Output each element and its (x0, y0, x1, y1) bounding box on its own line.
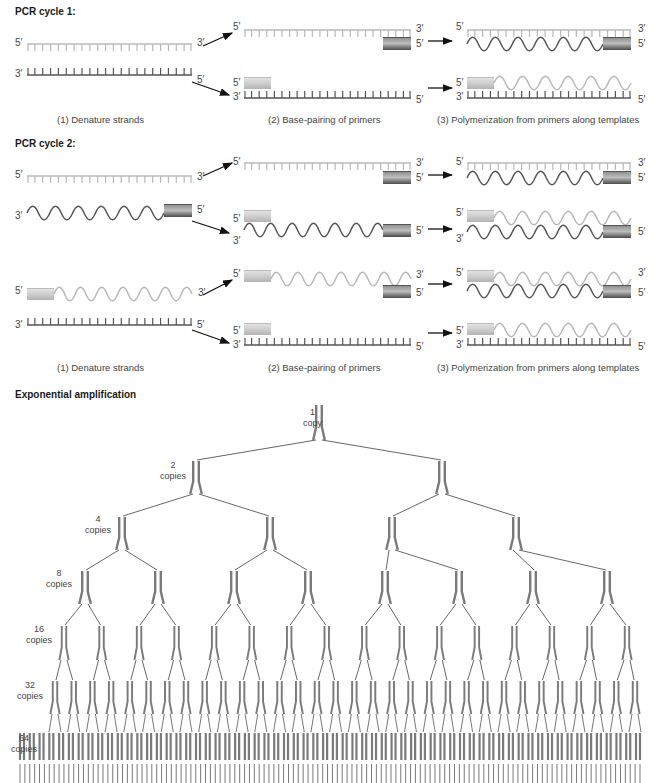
pcr-diagram-canvas (0, 0, 655, 783)
primer-dark (164, 204, 192, 217)
dna-duplex-icon (421, 733, 425, 760)
five-prime-label: 5′ (416, 173, 423, 183)
dna-duplex-icon (630, 681, 639, 714)
dna-duplex-icon (585, 626, 594, 660)
dna-duplex-icon (548, 733, 552, 760)
three-prime-label: 3′ (197, 172, 204, 182)
dna-duplex-icon (601, 571, 613, 604)
copies-unit: copy (303, 418, 322, 429)
five-prime-label: 5′ (638, 173, 645, 183)
primer-dark (383, 171, 411, 184)
dna-duplex-icon (443, 681, 452, 714)
dna-duplex-icon (453, 571, 465, 604)
dna-duplex-icon (401, 733, 405, 760)
dna-duplex-icon (323, 733, 327, 760)
primer-dark (603, 225, 631, 238)
copies-unit: copies (85, 525, 111, 536)
dna-duplex-icon (176, 733, 180, 760)
dna-duplex-icon (616, 733, 620, 760)
dna-duplex-icon (597, 733, 601, 760)
dna-duplex-icon (382, 733, 386, 760)
dna-duplex-icon (247, 626, 256, 660)
three-prime-label: 3′ (638, 158, 645, 168)
copies-count: 4 (85, 514, 111, 525)
five-prime-label: 5′ (416, 226, 423, 236)
primer-light (27, 288, 54, 300)
five-prime-label: 5′ (638, 95, 645, 105)
five-prime-label: 5′ (456, 326, 463, 336)
primer-light (244, 210, 271, 222)
copies-unit: copies (46, 579, 72, 590)
dna-duplex-icon (88, 733, 92, 760)
dna-duplex-icon (200, 681, 209, 714)
primer-dark (383, 37, 411, 50)
dna-strand-wave (271, 272, 411, 286)
dna-duplex-icon (88, 681, 97, 714)
dna-duplex-icon (186, 733, 190, 760)
five-prime-label: 5′ (456, 22, 463, 32)
copies-label-level-6: 64copies (11, 733, 37, 755)
five-prime-label: 5′ (638, 288, 645, 298)
five-prime-label: 5′ (416, 95, 423, 105)
dna-duplex-icon (368, 681, 377, 714)
dna-strand-wave (494, 211, 631, 225)
dna-duplex-icon (607, 733, 611, 760)
dna-duplex-icon (206, 733, 210, 760)
dna-duplex-icon (219, 681, 228, 714)
dna-duplex-icon (350, 681, 359, 714)
dna-duplex-icon (322, 626, 331, 660)
three-prime-label: 3′ (456, 340, 463, 350)
primer-dark (383, 224, 411, 237)
dna-strand-comb (467, 91, 631, 98)
dna-strand-comb (244, 338, 411, 345)
dna-duplex-icon (528, 733, 532, 760)
dna-duplex-icon (387, 681, 396, 714)
dna-strand-comb (27, 68, 192, 75)
five-prime-label: 5′ (15, 286, 22, 296)
dna-duplex-icon (481, 681, 490, 714)
dna-duplex-icon (509, 733, 513, 760)
five-prime-label: 5′ (416, 39, 423, 49)
dna-strand-comb (27, 176, 192, 183)
dna-duplex-icon (450, 733, 454, 760)
three-prime-label: 3′ (456, 234, 463, 244)
copies-count: 1 (303, 407, 322, 418)
three-prime-label: 3′ (15, 69, 22, 79)
dna-duplex-icon (499, 733, 503, 760)
copies-label-level-5: 32copies (17, 680, 43, 702)
dna-duplex-icon (235, 733, 239, 760)
dna-strand-comb (244, 30, 411, 37)
dna-duplex-icon (386, 517, 398, 550)
dna-duplex-icon (79, 733, 83, 760)
dna-strand-comb (467, 30, 631, 37)
three-prime-label: 3′ (416, 158, 423, 168)
dna-duplex-icon (59, 626, 68, 660)
primer-light (244, 77, 271, 89)
dna-duplex-icon (392, 733, 396, 760)
dna-duplex-icon (538, 733, 542, 760)
dna-duplex-icon (470, 733, 474, 760)
dna-duplex-icon (50, 681, 59, 714)
dna-strand-comb (27, 44, 192, 51)
dna-duplex-icon (397, 626, 406, 660)
copies-label-level-2: 4copies (85, 514, 111, 536)
primer-light (244, 270, 271, 282)
primer-dark (603, 171, 631, 184)
primer-light (467, 323, 494, 335)
dna-strand-wave (494, 76, 631, 90)
three-prime-label: 3′ (15, 211, 22, 221)
five-prime-label: 5′ (233, 269, 240, 279)
dna-duplex-icon (190, 461, 202, 494)
dna-duplex-icon (147, 733, 151, 760)
three-prime-label: 3′ (15, 320, 22, 330)
five-prime-label: 5′ (233, 78, 240, 88)
copies-count: 16 (26, 624, 52, 635)
dna-duplex-icon (69, 681, 78, 714)
three-prime-label: 3′ (416, 24, 423, 34)
copies-count: 64 (11, 733, 37, 744)
five-prime-label: 5′ (416, 342, 423, 352)
dna-duplex-icon (216, 733, 220, 760)
five-prime-label: 5′ (197, 320, 204, 330)
dna-duplex-icon (152, 571, 164, 604)
dna-strand-wave (467, 171, 603, 185)
